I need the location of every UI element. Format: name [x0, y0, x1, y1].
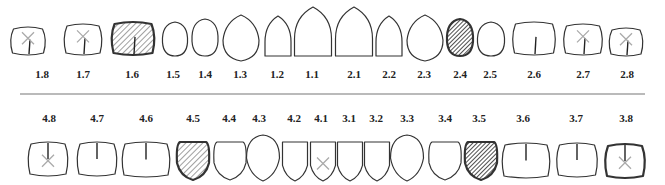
tooth-1-3[interactable]: 1.3 [223, 15, 259, 80]
tooth-2-4[interactable]: 2.4 [447, 19, 473, 80]
fissure-line [84, 38, 85, 54]
tooth-1-8[interactable]: 1.8 [11, 27, 50, 80]
tooth-3-5[interactable]: 3.5 [465, 112, 497, 180]
tooth-outline [283, 142, 308, 181]
tooth-1-2[interactable]: 1.2 [265, 16, 291, 80]
tooth-number-label: 3.1 [342, 112, 356, 124]
tooth-number-label: 3.3 [400, 112, 414, 124]
tooth-number-label: 1.6 [125, 68, 139, 80]
tooth-4-6[interactable]: 4.6 [122, 112, 170, 177]
tooth-1-6[interactable]: 1.6 [112, 22, 155, 80]
tooth-number-label: 4.2 [287, 112, 301, 124]
tooth-outline [513, 22, 556, 55]
tooth-number-label: 4.4 [222, 112, 236, 124]
tooth-outline [64, 24, 102, 55]
tooth-outline [265, 16, 291, 56]
fissure-line [584, 38, 585, 54]
tooth-number-label: 3.6 [516, 112, 530, 124]
tooth-1-4[interactable]: 1.4 [192, 19, 218, 80]
tooth-outline [477, 22, 504, 56]
tooth-2-6[interactable]: 2.6 [513, 22, 556, 80]
tooth-outline [214, 142, 246, 180]
tooth-4-3[interactable]: 4.3 [247, 112, 280, 181]
tooth-4-8[interactable]: 4.8 [28, 112, 68, 176]
tooth-number-label: 4.5 [186, 112, 200, 124]
tooth-outline [177, 142, 209, 180]
tooth-number-label: 3.5 [472, 112, 486, 124]
tooth-2-8[interactable]: 2.8 [609, 28, 643, 80]
tooth-3-6[interactable]: 3.6 [502, 112, 550, 178]
tooth-4-1[interactable]: 4.1 [311, 112, 336, 181]
tooth-1-7[interactable]: 1.7 [64, 24, 102, 80]
tooth-4-7[interactable]: 4.7 [77, 112, 117, 176]
tooth-outline [338, 142, 363, 181]
tooth-outline [365, 142, 390, 181]
tooth-number-label: 2.3 [417, 68, 431, 80]
tooth-number-label: 2.8 [620, 68, 634, 80]
tooth-outline [429, 142, 461, 180]
fissure-line [134, 37, 135, 54]
fissure-line [29, 40, 30, 54]
dental-chart: 1.81.71.61.51.41.31.21.12.12.22.32.42.52… [0, 0, 665, 185]
tooth-outline [112, 22, 155, 55]
tooth-outline [295, 7, 332, 56]
tooth-number-label: 2.4 [453, 68, 467, 80]
tooth-outline [247, 135, 280, 181]
tooth-outline [336, 7, 373, 56]
tooth-number-label: 4.8 [42, 112, 56, 124]
tooth-outline [192, 19, 218, 56]
tooth-2-7[interactable]: 2.7 [564, 24, 603, 80]
tooth-1-5[interactable]: 1.5 [162, 22, 187, 80]
tooth-number-label: 1.7 [76, 68, 90, 80]
tooth-number-label: 4.1 [314, 112, 328, 124]
tooth-outline [376, 16, 402, 56]
lower-jaw-row: 4.84.74.64.54.44.34.24.13.13.23.33.43.53… [28, 112, 645, 181]
tooth-outline [11, 27, 46, 55]
fissure-line [535, 37, 536, 54]
tooth-outline [223, 15, 259, 61]
tooth-number-label: 1.8 [35, 68, 49, 80]
tooth-number-label: 2.1 [347, 68, 361, 80]
tooth-3-4[interactable]: 3.4 [429, 112, 461, 180]
tooth-outline [447, 19, 473, 56]
tooth-number-label: 3.8 [619, 112, 633, 124]
tooth-number-label: 4.3 [252, 112, 266, 124]
tooth-number-label: 2.2 [382, 68, 396, 80]
tooth-outline [465, 142, 497, 180]
tooth-number-label: 1.5 [166, 68, 180, 80]
tooth-number-label: 2.5 [483, 68, 497, 80]
tooth-3-1[interactable]: 3.1 [338, 112, 363, 181]
fissure-line [627, 41, 628, 55]
upper-jaw-row: 1.81.71.61.51.41.31.21.12.12.22.32.42.52… [11, 7, 643, 80]
tooth-2-5[interactable]: 2.5 [477, 22, 504, 80]
tooth-number-label: 1.1 [305, 68, 319, 80]
tooth-2-2[interactable]: 2.2 [376, 16, 402, 80]
tooth-4-2[interactable]: 4.2 [283, 112, 308, 181]
tooth-number-label: 3.4 [438, 112, 452, 124]
tooth-number-label: 2.7 [576, 68, 590, 80]
tooth-number-label: 3.2 [369, 112, 383, 124]
tooth-4-4[interactable]: 4.4 [214, 112, 246, 180]
tooth-1-1[interactable]: 1.1 [295, 7, 332, 80]
tooth-outline [609, 28, 643, 56]
tooth-outline [162, 22, 187, 56]
tooth-number-label: 1.3 [233, 68, 247, 80]
tooth-2-3[interactable]: 2.3 [407, 15, 443, 80]
tooth-number-label: 3.7 [569, 112, 583, 124]
tooth-outline [564, 24, 603, 55]
tooth-outline [407, 15, 443, 61]
tooth-3-2[interactable]: 3.2 [365, 112, 390, 181]
tooth-number-label: 4.6 [139, 112, 153, 124]
tooth-outline [311, 142, 336, 181]
tooth-2-1[interactable]: 2.1 [336, 7, 373, 80]
tooth-number-label: 1.4 [198, 68, 212, 80]
tooth-number-label: 1.2 [270, 68, 284, 80]
tooth-3-7[interactable]: 3.7 [557, 112, 598, 177]
tooth-3-8[interactable]: 3.8 [605, 112, 645, 178]
tooth-4-5[interactable]: 4.5 [177, 112, 209, 180]
tooth-number-label: 2.6 [527, 68, 541, 80]
tooth-outline [391, 135, 424, 181]
tooth-number-label: 4.7 [90, 112, 104, 124]
tooth-3-3[interactable]: 3.3 [391, 112, 424, 181]
